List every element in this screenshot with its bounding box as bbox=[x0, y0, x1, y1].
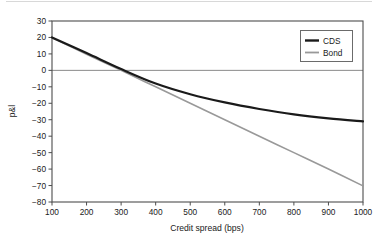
page-rule bbox=[6, 1, 372, 2]
y-tick-label: 10 bbox=[37, 49, 47, 59]
y-tick-label: 20 bbox=[37, 32, 47, 42]
y-tick-label: −80 bbox=[32, 197, 46, 207]
x-tick-label: 600 bbox=[218, 207, 232, 217]
x-tick-label: 500 bbox=[183, 207, 197, 217]
x-axis-tick-labels: 1002003004005006007008009001000 bbox=[45, 207, 373, 217]
legend-label-bond: Bond bbox=[323, 48, 343, 58]
y-tick-label: 0 bbox=[41, 65, 46, 75]
y-axis-title: p&l bbox=[7, 105, 17, 118]
y-tick-label: −50 bbox=[32, 148, 46, 158]
y-tick-label: −30 bbox=[32, 115, 46, 125]
x-axis-title: Credit spread (bps) bbox=[170, 223, 244, 233]
y-tick-label: −40 bbox=[32, 131, 46, 141]
y-tick-label: −60 bbox=[32, 164, 46, 174]
x-tick-label: 400 bbox=[149, 207, 163, 217]
x-tick-label: 1000 bbox=[354, 207, 373, 217]
y-tick-label: −10 bbox=[32, 82, 46, 92]
x-tick-label: 100 bbox=[45, 207, 59, 217]
x-tick-label: 200 bbox=[80, 207, 94, 217]
y-tick-label: 30 bbox=[37, 16, 47, 26]
y-axis-tick-labels: 3020100−10−20−30−40−50−60−70−80 bbox=[32, 16, 46, 207]
legend[interactable]: CDS Bond bbox=[301, 31, 353, 62]
x-tick-label: 300 bbox=[114, 207, 128, 217]
x-tick-label: 800 bbox=[287, 207, 301, 217]
y-tick-label: −20 bbox=[32, 98, 46, 108]
x-tick-label: 900 bbox=[322, 207, 336, 217]
legend-label-cds: CDS bbox=[323, 36, 341, 46]
chart-figure: 3020100−10−20−30−40−50−60−70−80 10020030… bbox=[0, 0, 378, 247]
y-tick-label: −70 bbox=[32, 181, 46, 191]
x-tick-label: 700 bbox=[252, 207, 266, 217]
pnl-vs-credit-spread-chart: 3020100−10−20−30−40−50−60−70−80 10020030… bbox=[0, 0, 378, 247]
